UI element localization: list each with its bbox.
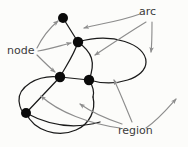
upper-middle-node (73, 37, 83, 47)
nodes-layer (21, 13, 94, 118)
label-region: region (118, 125, 153, 136)
pointers-layer (37, 14, 176, 128)
diagram-canvas: node arc region (0, 0, 188, 147)
left-center-node (55, 72, 65, 82)
arc-n2-n4-inner (78, 42, 92, 80)
arc-pointer-to-right-loop (151, 22, 152, 52)
bottom-left-node (21, 108, 31, 118)
arc-pointer-to-n1-n2-edge (84, 14, 140, 28)
arc-n2-n3 (60, 42, 78, 77)
region-pointer-to-lower-region (80, 104, 122, 124)
node-pointer-to-top-node (37, 21, 58, 48)
arcs-layer (19, 18, 146, 133)
label-node: node (7, 45, 34, 56)
node-pointer-to-upper-middle-node (38, 43, 71, 51)
graph-svg (0, 0, 188, 147)
right-center-node (84, 75, 94, 85)
label-arc: arc (139, 6, 156, 17)
arc-n3-n5-left-circle (19, 77, 60, 113)
node-pointer-to-left-center-node (37, 55, 55, 72)
top-node (58, 13, 68, 23)
region-pointer-to-right-loop-region (114, 80, 132, 122)
